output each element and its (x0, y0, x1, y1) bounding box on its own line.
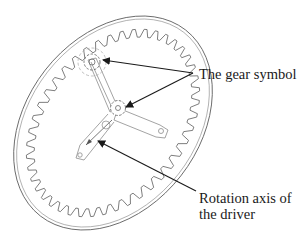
middle-gear-symbol-icon (111, 101, 126, 116)
rotation-axis-label: Rotation axis of the driver (199, 190, 292, 222)
arrow-to-middle-gear (126, 73, 193, 107)
rotation-axis-label-line2: the driver (199, 206, 292, 222)
rotation-axis-label-line1: Rotation axis of (199, 190, 292, 206)
arrow-to-rotation-axis (98, 141, 196, 191)
gear-mechanism-diagram: The gear symbol Rotation axis of the dri… (0, 0, 302, 239)
gear-symbol-label: The gear symbol (199, 66, 296, 82)
callout-arrows (98, 60, 196, 191)
arrow-to-upper-gear (103, 60, 193, 73)
